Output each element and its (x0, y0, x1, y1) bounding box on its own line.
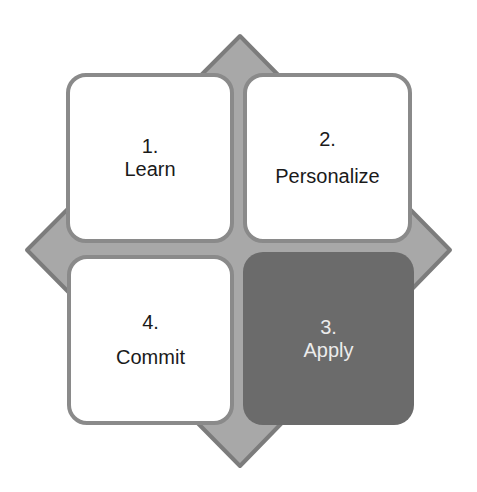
step-personalize-box: 2. Personalize (243, 73, 412, 243)
step-number: 3. (320, 316, 337, 339)
step-label: Learn (124, 158, 175, 181)
step-apply-box-highlighted: 3. Apply (243, 252, 414, 425)
step-label: Personalize (275, 165, 380, 188)
step-number: 4. (142, 311, 159, 334)
step-learn-box: 1. Learn (66, 73, 234, 243)
step-label: Commit (116, 346, 185, 369)
cycle-diagram: 1. Learn 2. Personalize 4. Commit 3. App… (0, 0, 477, 492)
step-commit-box: 4. Commit (67, 255, 234, 425)
step-label: Apply (303, 339, 353, 362)
step-number: 2. (319, 128, 336, 151)
step-number: 1. (142, 135, 159, 158)
